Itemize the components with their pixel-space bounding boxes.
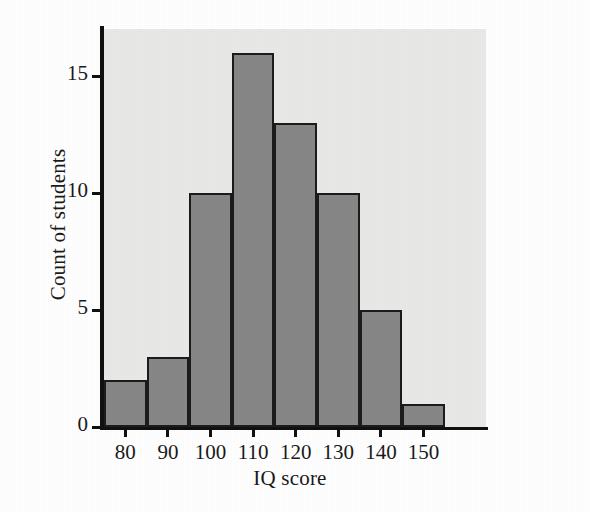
y-axis-line bbox=[100, 26, 104, 430]
x-axis-title: IQ score bbox=[100, 466, 480, 491]
x-axis-tick-mark bbox=[294, 428, 297, 437]
histogram-figure: 051015 8090100110120130140150 Count of s… bbox=[0, 0, 590, 512]
x-axis-tick-mark bbox=[252, 428, 255, 437]
histogram-bar bbox=[104, 380, 147, 427]
histogram-bar bbox=[317, 193, 360, 427]
y-axis-tick-mark bbox=[92, 309, 101, 312]
histogram-bar bbox=[147, 357, 190, 427]
x-axis-tick-mark bbox=[337, 428, 340, 437]
y-axis-tick-mark bbox=[92, 75, 101, 78]
histogram-bar bbox=[189, 193, 232, 427]
histogram-bar bbox=[274, 123, 317, 427]
x-axis-tick-label: 150 bbox=[394, 440, 454, 465]
y-axis-tick-label: 0 bbox=[50, 412, 88, 437]
histogram-bar bbox=[232, 53, 275, 427]
x-axis-tick-mark bbox=[379, 428, 382, 437]
histogram-bar bbox=[360, 310, 403, 427]
y-axis-title: Count of students bbox=[46, 75, 71, 375]
x-axis-tick-mark bbox=[422, 428, 425, 437]
x-axis-tick-mark bbox=[209, 428, 212, 437]
histogram-bar bbox=[402, 404, 445, 427]
y-axis-tick-mark bbox=[92, 192, 101, 195]
x-axis-tick-mark bbox=[124, 428, 127, 437]
y-axis-tick-label-wrap: 0 bbox=[46, 427, 88, 428]
x-axis-tick-label-wrap: 150 bbox=[394, 440, 454, 441]
y-axis-tick-mark bbox=[92, 426, 101, 429]
x-axis-tick-mark bbox=[166, 428, 169, 437]
